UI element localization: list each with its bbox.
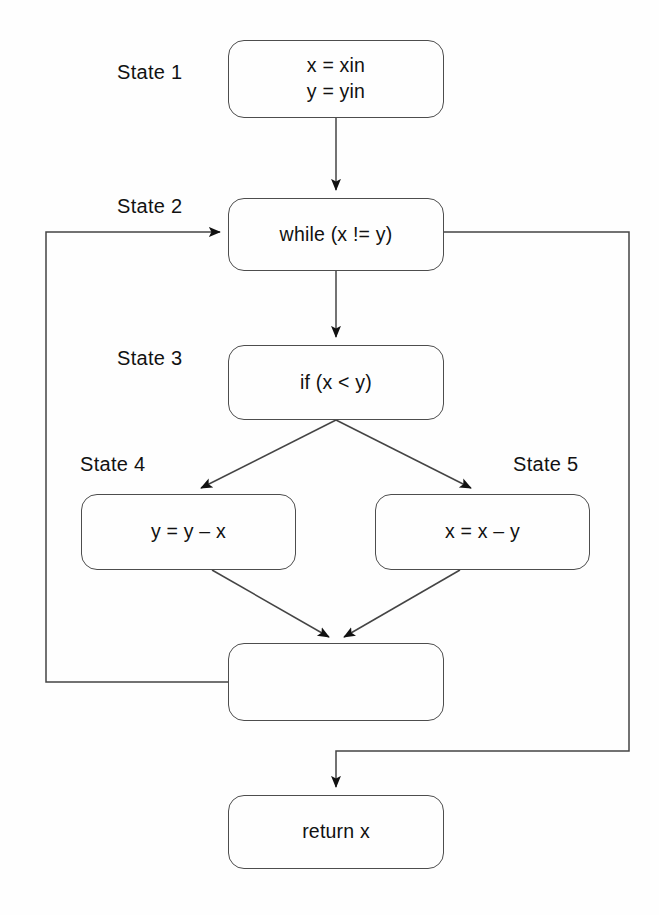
node-state3-if[interactable]: if (x < y) <box>228 345 444 420</box>
edge-state3-to-state4 <box>201 420 336 488</box>
node-state4-decrement-y[interactable]: y = y – x <box>81 494 296 570</box>
state-label-2: State 2 <box>117 195 182 218</box>
node-state5-text: x = x – y <box>445 519 520 545</box>
node-state1-text: x = xin y = yin <box>307 53 365 104</box>
node-state4-text: y = y – x <box>151 519 226 545</box>
state-label-4: State 4 <box>80 453 145 476</box>
edge-state5-to-merge <box>344 570 460 637</box>
node-merge-empty[interactable] <box>228 643 444 721</box>
node-return[interactable]: return x <box>228 795 444 869</box>
state-label-3: State 3 <box>117 347 182 370</box>
state-label-1: State 1 <box>117 61 182 84</box>
node-state3-text: if (x < y) <box>300 370 372 396</box>
state-label-5: State 5 <box>513 453 578 476</box>
edge-state3-to-state5 <box>336 420 471 488</box>
node-return-text: return x <box>302 819 370 845</box>
node-state5-decrement-x[interactable]: x = x – y <box>375 494 590 570</box>
edge-state4-to-merge <box>212 570 329 637</box>
node-state2-while[interactable]: while (x != y) <box>228 198 444 271</box>
node-state2-text: while (x != y) <box>280 222 393 248</box>
node-state1-assign[interactable]: x = xin y = yin <box>228 40 444 118</box>
diagram-canvas: x = xin y = yin while (x != y) if (x < y… <box>0 0 659 915</box>
